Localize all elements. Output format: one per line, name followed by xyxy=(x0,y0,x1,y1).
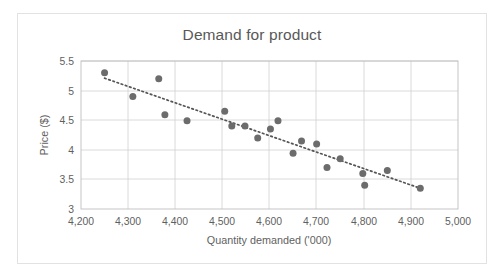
data-point xyxy=(313,140,320,147)
data-point xyxy=(417,185,424,192)
data-point xyxy=(290,150,297,157)
y-tick-label: 5 xyxy=(68,86,74,97)
x-tick-label: 4,500 xyxy=(209,216,235,227)
x-tick-label: 4,700 xyxy=(303,216,329,227)
x-axis-title: Quantity demanded ('000) xyxy=(207,234,332,246)
data-point xyxy=(359,170,366,177)
data-point xyxy=(221,108,228,115)
data-point xyxy=(361,182,368,189)
data-point xyxy=(241,123,248,130)
x-tick-label: 4,300 xyxy=(115,216,141,227)
y-tick-label: 5.5 xyxy=(60,56,75,67)
data-point xyxy=(384,167,391,174)
x-axis-tick-labels: 4,200 4,300 4,400 4,500 4,600 4,700 4,80… xyxy=(68,216,471,227)
x-tick-label: 5,000 xyxy=(445,216,471,227)
data-point xyxy=(254,134,261,141)
chart-card: Demand for product 5.5 5 4.5 4 3.5 3 xyxy=(17,13,487,264)
y-tick-label: 3.5 xyxy=(60,174,75,185)
y-axis-title: Price ($) xyxy=(38,115,50,156)
y-tick-label: 4 xyxy=(68,145,74,156)
data-point xyxy=(184,117,191,124)
data-point xyxy=(155,75,162,82)
x-tick-label: 4,200 xyxy=(68,216,94,227)
y-tick-label: 4.5 xyxy=(60,115,75,126)
trendline xyxy=(105,78,421,188)
data-point xyxy=(161,111,168,118)
data-point xyxy=(323,164,330,171)
plot-frame xyxy=(81,61,458,209)
x-tick-label: 4,900 xyxy=(398,216,424,227)
data-point xyxy=(267,126,274,133)
data-point xyxy=(298,137,305,144)
y-axis-tick-labels: 5.5 5 4.5 4 3.5 3 xyxy=(60,56,75,215)
gridlines xyxy=(81,61,458,209)
x-tick-label: 4,600 xyxy=(256,216,282,227)
data-point xyxy=(274,117,281,124)
plot-area-border xyxy=(81,61,458,209)
x-tick-label: 4,400 xyxy=(162,216,188,227)
trendline-segment xyxy=(105,78,421,188)
data-point xyxy=(129,93,136,100)
data-point xyxy=(228,123,235,130)
data-point xyxy=(337,155,344,162)
y-tick-label: 3 xyxy=(68,204,74,215)
scatter-plot: 5.5 5 4.5 4 3.5 3 4,200 4,300 4,400 4,50… xyxy=(18,14,488,265)
x-tick-label: 4,800 xyxy=(351,216,377,227)
data-point xyxy=(101,69,108,76)
